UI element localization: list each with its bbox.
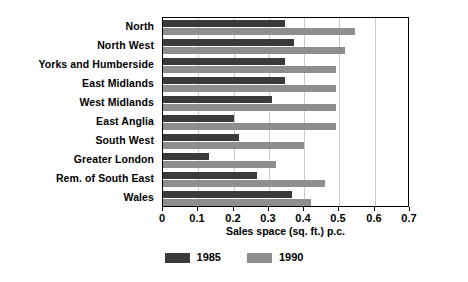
category-label: West Midlands — [79, 93, 154, 112]
bar-1985 — [163, 172, 257, 179]
bar-1990 — [163, 123, 336, 130]
x-tick — [197, 207, 198, 211]
bar-row — [163, 56, 410, 75]
x-tick — [374, 207, 375, 211]
category-label: South West — [95, 131, 154, 150]
bar-1985 — [163, 39, 294, 46]
legend-swatch-icon — [247, 253, 272, 263]
bar-1990 — [163, 47, 345, 54]
x-tick-label: 0 — [159, 212, 165, 224]
bar-1985 — [163, 77, 285, 84]
x-tick-label: 0.7 — [401, 212, 416, 224]
x-axis-title: Sales space (sq. ft.) p.c. — [162, 225, 409, 237]
category-label: North West — [97, 36, 154, 55]
category-label: East Anglia — [96, 112, 154, 131]
x-tick — [162, 207, 163, 211]
bar-1990 — [163, 161, 276, 168]
x-tick-label: 0.6 — [366, 212, 381, 224]
bar-1985 — [163, 20, 285, 27]
bar-row — [163, 37, 410, 56]
bar-1990 — [163, 28, 355, 35]
bar-1985 — [163, 134, 239, 141]
x-tick — [303, 207, 304, 211]
x-tick — [268, 207, 269, 211]
x-tick-label: 0.4 — [295, 212, 310, 224]
bar-1990 — [163, 85, 336, 92]
x-tick — [233, 207, 234, 211]
category-label: Wales — [124, 188, 154, 207]
bar-1990 — [163, 180, 325, 187]
category-label: East Midlands — [82, 74, 154, 93]
category-label: Yorks and Humberside — [38, 55, 154, 74]
category-axis: NorthNorth WestYorks and HumbersideEast … — [0, 17, 158, 207]
category-label: Rem. of South East — [56, 169, 154, 188]
bar-1985 — [163, 115, 234, 122]
bar-1990 — [163, 142, 304, 149]
x-tick-label: 0.2 — [225, 212, 240, 224]
category-label: North — [126, 17, 155, 36]
x-tick-label: 0.3 — [260, 212, 275, 224]
bar-row — [163, 18, 410, 37]
category-label: Greater London — [74, 150, 154, 169]
bar-row — [163, 170, 410, 189]
bar-1985 — [163, 191, 292, 198]
bar-row — [163, 189, 410, 208]
bar-1990 — [163, 199, 311, 206]
plot-area — [162, 17, 409, 207]
chart-legend: 19851990 — [0, 252, 468, 263]
bar-1990 — [163, 104, 336, 111]
bar-1985 — [163, 96, 272, 103]
x-tick — [409, 207, 410, 211]
x-tick-label: 0.1 — [189, 212, 204, 224]
legend-label: 1985 — [197, 252, 221, 263]
bar-1990 — [163, 66, 336, 73]
legend-item: 1990 — [247, 252, 303, 263]
bar-row — [163, 113, 410, 132]
legend-swatch-icon — [165, 253, 190, 263]
legend-label: 1990 — [279, 252, 303, 263]
bar-1985 — [163, 153, 209, 160]
bar-row — [163, 75, 410, 94]
bar-row — [163, 94, 410, 113]
legend-item: 1985 — [165, 252, 221, 263]
bar-chart: NorthNorth WestYorks and HumbersideEast … — [0, 0, 468, 282]
x-tick — [338, 207, 339, 211]
plot-inner — [163, 18, 408, 206]
bar-row — [163, 151, 410, 170]
bar-1985 — [163, 58, 285, 65]
x-tick-label: 0.5 — [330, 212, 345, 224]
bar-row — [163, 132, 410, 151]
